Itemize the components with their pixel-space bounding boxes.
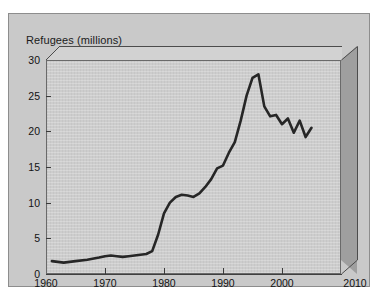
box-top-edges — [46, 46, 342, 60]
chart-title: Refugees (millions) — [26, 34, 122, 46]
y-tick-label: 30 — [10, 54, 40, 66]
y-tick-label: 5 — [10, 232, 40, 244]
x-tick-label: 2010 — [343, 277, 366, 289]
x-axis-baseline — [46, 274, 342, 275]
refugees-line — [52, 74, 312, 262]
x-tick-label: 1990 — [211, 277, 234, 289]
y-tick-label: 20 — [10, 125, 40, 137]
data-series-line — [46, 60, 341, 274]
x-tick-label: 2000 — [270, 277, 293, 289]
y-tick-label: 25 — [10, 90, 40, 102]
chart-figure-frame: Refugees (millions) 051015202530 1960197… — [8, 13, 370, 287]
y-tick-label: 15 — [10, 161, 40, 173]
x-tick-label: 1960 — [34, 277, 57, 289]
x-tick-label: 1970 — [93, 277, 116, 289]
x-tick-label: 1980 — [152, 277, 175, 289]
box-right-edges — [341, 46, 358, 275]
y-tick-label: 10 — [10, 197, 40, 209]
